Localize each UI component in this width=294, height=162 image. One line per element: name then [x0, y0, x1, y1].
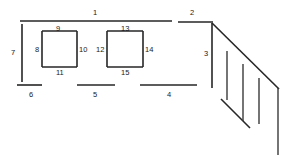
label-2: 2 — [190, 9, 194, 17]
segments-group — [17, 21, 279, 155]
label-15: 15 — [121, 69, 129, 77]
label-6: 6 — [29, 91, 33, 99]
label-8: 8 — [35, 46, 39, 54]
label-5: 5 — [93, 91, 97, 99]
label-10: 10 — [79, 46, 87, 54]
label-9: 9 — [56, 25, 60, 33]
label-1: 1 — [93, 9, 97, 17]
technical-diagram-canvas: 123456789101112131415 — [0, 0, 294, 162]
label-3: 3 — [204, 50, 208, 58]
label-13: 13 — [121, 25, 129, 33]
label-14: 14 — [145, 46, 153, 54]
diagonal-lower — [221, 99, 250, 128]
diagram-linework — [0, 0, 294, 162]
diagonal-main — [212, 23, 279, 89]
label-7: 7 — [11, 49, 15, 57]
label-4: 4 — [167, 91, 171, 99]
label-11: 11 — [56, 69, 64, 77]
label-12: 12 — [96, 46, 104, 54]
